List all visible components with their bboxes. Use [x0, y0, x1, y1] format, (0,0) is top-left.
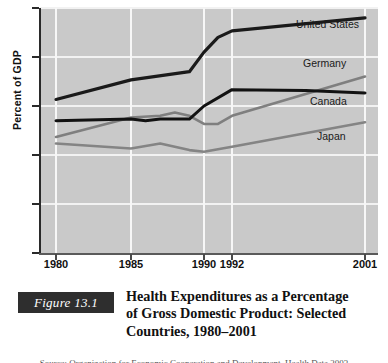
- y-tick-mark: [32, 105, 39, 107]
- y-axis-title: Percent of GDP: [11, 40, 23, 140]
- series-label-germany: Germany: [303, 57, 346, 69]
- caption-line-3: Countries, 1980–2001: [126, 323, 257, 339]
- source-note-clipped: Source: Organization for Economic Cooper…: [0, 358, 388, 363]
- y-tick-mark: [32, 7, 39, 9]
- y-tick-mark: [32, 56, 39, 58]
- x-tick-mark: [130, 254, 132, 260]
- series-label-japan: Japan: [317, 130, 346, 142]
- x-tick-mark: [55, 254, 57, 260]
- series-label-canada: Canada: [310, 95, 347, 107]
- chart-line-health-expenditures: Percent of GDP 03691215 1980198519901992…: [0, 0, 388, 285]
- figure-caption-title: Health Expenditures as a Percentage of G…: [126, 288, 381, 340]
- figure-caption: Figure 13.1 Health Expenditures as a Per…: [0, 288, 388, 362]
- caption-line-1: Health Expenditures as a Percentage: [126, 288, 349, 304]
- y-tick-mark: [32, 154, 39, 156]
- y-tick-mark: [32, 203, 39, 205]
- y-tick-mark: [32, 252, 39, 254]
- x-axis-spine: [39, 253, 378, 255]
- figure-number-badge: Figure 13.1: [18, 292, 114, 313]
- x-tick-mark: [203, 254, 205, 260]
- y-axis-spine: [39, 8, 41, 254]
- x-tick-mark: [231, 254, 233, 260]
- caption-line-2: of Gross Domestic Product: Selected: [126, 305, 346, 321]
- x-tick-mark: [364, 254, 366, 260]
- series-label-united-states: United States: [296, 18, 359, 30]
